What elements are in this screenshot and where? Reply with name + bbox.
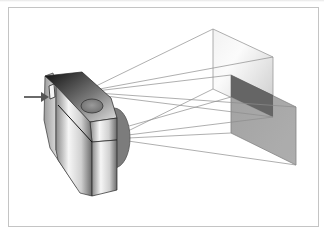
camera-body [44, 72, 117, 196]
camera-projection-diagram [0, 0, 324, 236]
viewfinder-window [49, 84, 55, 99]
ray-near-mid [129, 97, 231, 126]
figure-canvas [0, 0, 324, 236]
ray-far-bottom-left [128, 89, 213, 131]
shutter-button [81, 99, 103, 113]
ray-near-bottom-left [128, 133, 231, 138]
